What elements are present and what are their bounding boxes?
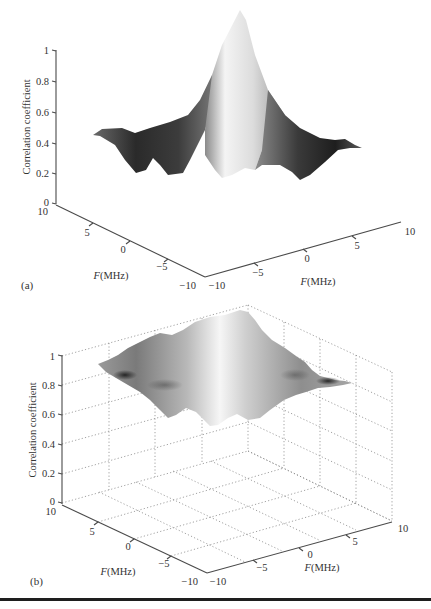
f-axis-right-b xyxy=(207,522,392,573)
f-axis-right-ticks-b xyxy=(253,535,350,563)
f-right-tick-a-neg10: −10 xyxy=(209,280,225,291)
z-tick-a-0.2: 0.2 xyxy=(36,168,49,179)
z-tick-b-0.2: 0.2 xyxy=(42,468,55,479)
f-right-tick-a-0: 0 xyxy=(304,253,309,264)
z-tick-b-0.6: 0.6 xyxy=(42,409,55,420)
f-right-tick-b-5: 5 xyxy=(352,536,357,547)
f-left-tick-b-5: 5 xyxy=(89,526,94,537)
surface-b-shadow-mid xyxy=(147,379,183,391)
f-axis-left-title-b: F(MHz) xyxy=(100,566,136,578)
surface-b xyxy=(98,310,352,426)
z-axis-title-b: Correlation coefficient xyxy=(27,382,38,477)
f-right-tick-a-5: 5 xyxy=(354,240,359,251)
f-axis-left-a xyxy=(56,205,205,277)
f-axis-left-b xyxy=(62,505,207,573)
surface-b-shadow-left xyxy=(113,370,137,380)
f-left-tick-b-neg5: −5 xyxy=(158,558,169,569)
f-axis-left-ticks-a xyxy=(89,223,168,262)
f-axis-right-title-a: F(MHz) xyxy=(300,276,336,288)
f-left-tick-b-neg10: −10 xyxy=(182,576,198,587)
z-tick-a-1: 1 xyxy=(44,45,49,56)
figure-canvas: 1 0.8 0.6 0.4 0.2 0 Correlation coeffici… xyxy=(0,0,431,609)
z-ticks-b xyxy=(58,355,62,503)
panel-label-b: (b) xyxy=(30,575,43,588)
f-left-tick-a-5: 5 xyxy=(84,227,89,238)
f-left-tick-a-neg10: −10 xyxy=(180,280,196,291)
z-tick-a-0.6: 0.6 xyxy=(36,107,49,118)
f-right-tick-b-10: 10 xyxy=(398,523,409,534)
f-left-tick-a-10: 10 xyxy=(38,206,49,217)
z-tick-b-0.8: 0.8 xyxy=(42,380,55,391)
caption-cutoff-text xyxy=(0,602,431,609)
f-right-tick-a-10: 10 xyxy=(405,226,416,237)
surface-a-right-wing xyxy=(255,90,362,180)
f-left-tick-a-neg5: −5 xyxy=(156,261,167,272)
f-axis-right-title-b: F(MHz) xyxy=(304,562,340,574)
z-tick-b-0.4: 0.4 xyxy=(42,439,56,450)
panel-label-a: (a) xyxy=(21,279,34,292)
caption-rule xyxy=(0,598,431,601)
panel-b: 1 0.8 0.6 0.4 0.2 0 Correlation coeffici… xyxy=(27,305,408,588)
z-tick-b-1: 1 xyxy=(50,351,55,362)
z-tick-a-0.8: 0.8 xyxy=(36,76,49,87)
f-right-tick-b-neg10: −10 xyxy=(210,576,226,587)
f-right-tick-a-neg5: −5 xyxy=(252,267,263,278)
f-left-tick-b-0: 0 xyxy=(125,541,130,552)
surface-a-left-wing xyxy=(93,75,215,175)
surface-b-shadow-mid2 xyxy=(280,369,310,381)
f-right-tick-b-neg5: −5 xyxy=(256,562,267,573)
z-tick-a-0.4: 0.4 xyxy=(36,138,50,149)
z-ticks-a xyxy=(52,50,56,204)
f-right-tick-b-0: 0 xyxy=(307,549,312,560)
f-left-tick-a-0: 0 xyxy=(120,244,125,255)
f-axis-left-ticks-b xyxy=(94,522,171,559)
panel-a: 1 0.8 0.6 0.4 0.2 0 Correlation coeffici… xyxy=(21,10,415,292)
z-axis-title-a: Correlation coefficient xyxy=(21,79,32,174)
f-left-tick-b-10: 10 xyxy=(46,506,57,517)
f-axis-left-title-a: F(MHz) xyxy=(93,270,129,282)
surface-b-shadow-right xyxy=(316,377,340,385)
